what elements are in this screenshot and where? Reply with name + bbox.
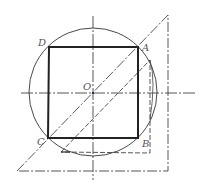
center-point — [92, 92, 94, 94]
diagram-canvas: D A O C B — [0, 0, 208, 190]
label-o: O — [83, 81, 91, 92]
label-d: D — [37, 37, 46, 48]
geometry-diagram: D A O C B — [0, 0, 208, 190]
label-a: A — [141, 42, 149, 53]
label-b: B — [141, 138, 149, 149]
label-c: C — [37, 136, 45, 147]
